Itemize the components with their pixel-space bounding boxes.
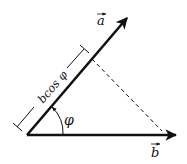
projection-label: bcos φ (35, 68, 71, 106)
vector-a-label-group: a (97, 13, 106, 28)
vector-a-label: a (97, 13, 105, 28)
angle-label: φ (64, 112, 74, 128)
vector-b-label-group: b (151, 144, 160, 160)
vector-diagram: bcos φ φ a b (0, 0, 187, 164)
vector-b-label: b (151, 145, 159, 160)
vector-a-line (27, 18, 127, 135)
angle-arc-icon (52, 107, 63, 135)
projection-dashed-line (92, 59, 162, 131)
